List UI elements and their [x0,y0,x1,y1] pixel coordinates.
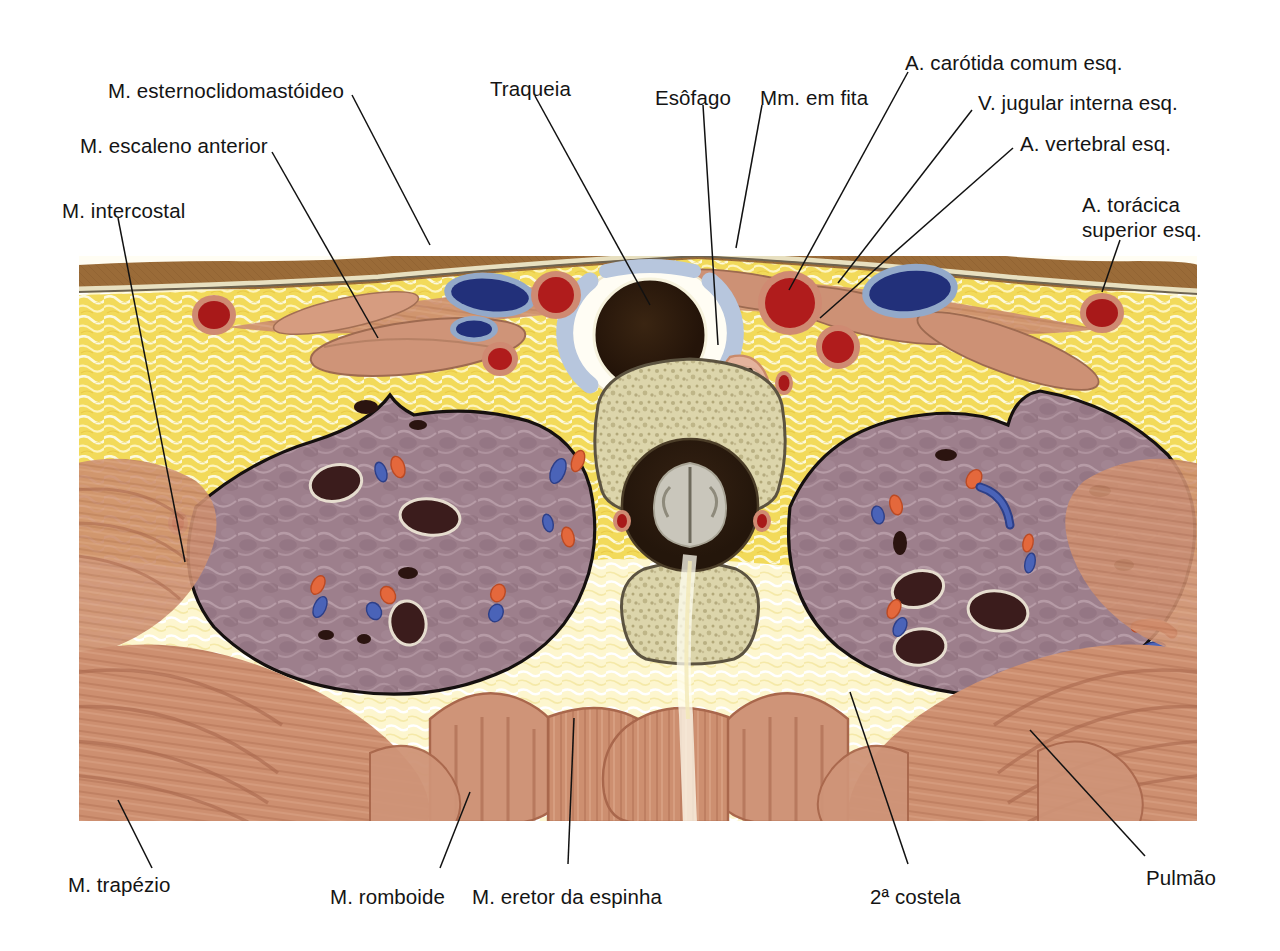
label-m-romboide: M. romboide [330,884,445,909]
left-common-carotid-artery [758,271,822,335]
label-segunda-costela: 2ª costela [870,884,961,909]
leader-line-mm-em-fita [736,105,762,248]
label-mm-em-fita: Mm. em fita [760,85,868,110]
illustration-stage: M. esternoclidomastóideo M. escaleno ant… [0,0,1280,951]
label-a-toracica-superior-esq: A. torácica superior esq. [1082,192,1202,242]
label-m-esternoclidomastoideo: M. esternoclidomastóideo [108,78,344,103]
thorax-cross-section-illustration [78,255,1198,822]
leader-line-m-esternoclidomastoideo [352,95,430,245]
right-subclavian-vein-branch [450,316,498,342]
label-m-trapezio: M. trapézio [68,872,171,897]
right-vertebral-artery [482,342,518,376]
right-intercostal-artery-lateral [192,295,236,335]
label-m-escaleno-anterior: M. escaleno anterior [80,133,268,158]
left-superior-thoracic-artery [1080,293,1124,333]
label-a-vertebral-esq: A. vertebral esq. [1020,131,1171,156]
right-common-carotid-artery [531,271,581,319]
label-pulmao: Pulmão [1146,865,1216,890]
label-m-intercostal: M. intercostal [62,198,185,223]
label-m-eretor-da-espinha: M. eretor da espinha [472,884,662,909]
left-vertebral-artery [816,325,860,369]
label-traqueia: Traqueia [490,76,571,101]
label-v-jugular-interna-esq: V. jugular interna esq. [978,90,1178,115]
label-a-carotida-comum-esq: A. carótida comum esq. [905,50,1123,75]
label-esofago: Esôfago [655,85,731,110]
